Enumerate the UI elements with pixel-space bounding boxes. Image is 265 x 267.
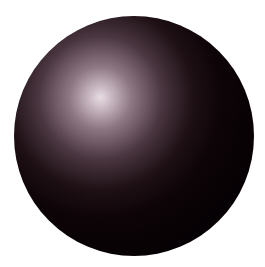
- shaded-sphere: [14, 16, 254, 256]
